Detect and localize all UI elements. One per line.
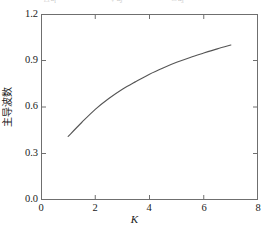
x-axis-label-2: 2	[83, 202, 107, 213]
x-axis-label-0: 0	[29, 202, 53, 213]
y-axis-title: 主导波数	[0, 72, 14, 142]
x-axis-label-6: 6	[192, 202, 216, 213]
chart-figure: △ a1 ▽ a2 □ a3	[0, 0, 269, 231]
x-axis-label-4: 4	[137, 202, 161, 213]
x-axis-label-8: 8	[246, 202, 269, 213]
x-axis-tick-labels: 0 2 4 6 8	[0, 0, 269, 231]
x-axis-title: K	[0, 213, 269, 225]
